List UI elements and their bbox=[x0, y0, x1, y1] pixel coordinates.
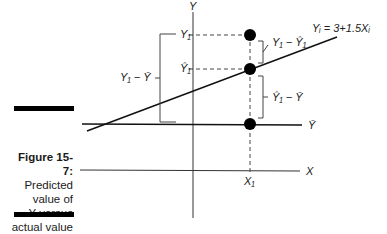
explained-label: Ŷ₁ − Ȳ bbox=[272, 91, 303, 103]
bracket-tick bbox=[263, 45, 268, 52]
mean-line bbox=[82, 124, 302, 125]
total-deviation-bracket bbox=[160, 34, 176, 122]
total-deviation-label: Y₁ − Ȳ bbox=[120, 71, 151, 83]
yhat1-label: Ŷ₁ bbox=[180, 62, 191, 74]
x1-label: X₁ bbox=[243, 175, 255, 187]
regression-diagram: Y X Ȳ X₁ Y₁ Ŷ₁ Yᵢ = 3+1.5Xᵢ Y₁ − Ȳ Y₁ − … bbox=[0, 0, 387, 234]
x-axis bbox=[80, 170, 300, 171]
predicted-point bbox=[244, 63, 256, 75]
regression-equation: Yᵢ = 3+1.5Xᵢ bbox=[312, 22, 370, 34]
y1-label: Y₁ bbox=[180, 28, 191, 40]
explained-bracket bbox=[258, 76, 263, 118]
actual-point bbox=[244, 29, 256, 41]
y-axis-label: Y bbox=[189, 0, 197, 12]
x-axis-label: X bbox=[305, 165, 314, 177]
residual-label: Y₁ − Ŷ₁ bbox=[272, 36, 307, 48]
mean-point bbox=[244, 118, 256, 130]
regression-line bbox=[87, 37, 337, 131]
mean-label: Ȳ bbox=[308, 119, 316, 131]
residual-bracket bbox=[258, 41, 263, 63]
